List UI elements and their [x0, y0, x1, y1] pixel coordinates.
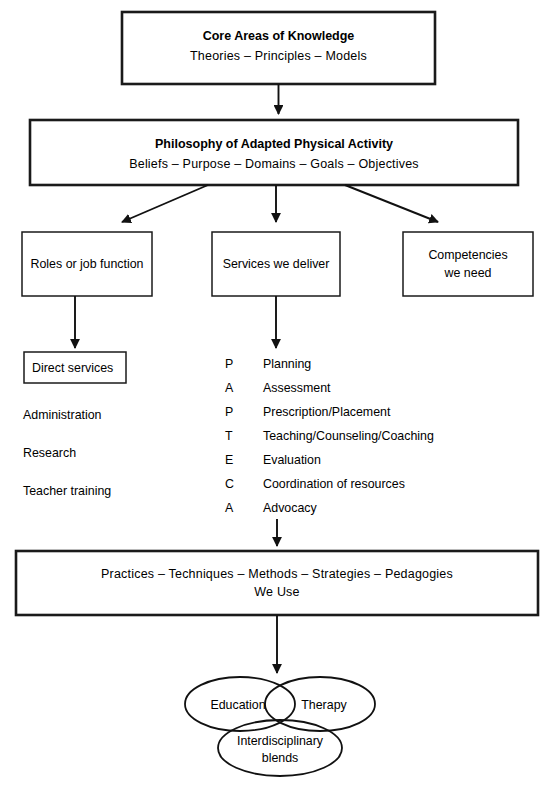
- branch-box-roles: Roles or job function: [22, 232, 152, 296]
- connector-philosophy-to-competencies: [345, 185, 438, 222]
- practices-line1: Practices – Techniques – Methods – Strat…: [101, 567, 453, 581]
- papteca-letter-3: T: [225, 429, 233, 443]
- venn-label-interdisciplinary-line2: blends: [262, 751, 299, 765]
- services-box-label: Services we deliver: [223, 257, 330, 271]
- philosophy-title: Philosophy of Adapted Physical Activity: [155, 137, 393, 151]
- competencies-box-label-line1: Competencies: [428, 248, 507, 262]
- papteca-label-3: Teaching/Counseling/Coaching: [263, 429, 434, 443]
- flowchart-canvas: Core Areas of Knowledge Theories – Princ…: [0, 0, 559, 789]
- roles-list-item-teacher-training: Teacher training: [23, 484, 111, 498]
- philosophy-box-rect: [30, 120, 518, 185]
- papteca-label-0: Planning: [263, 357, 311, 371]
- flowchart-diagram: Core Areas of Knowledge Theories – Princ…: [0, 0, 559, 789]
- direct-services-label: Direct services: [32, 361, 113, 375]
- venn-label-education: Education: [210, 698, 265, 712]
- core-areas-box: Core Areas of Knowledge Theories – Princ…: [122, 12, 435, 84]
- papteca-label-2: Prescription/Placement: [263, 405, 391, 419]
- papteca-label-4: Evaluation: [263, 453, 321, 467]
- papteca-letter-6: A: [225, 501, 234, 515]
- venn-ellipse-interdisciplinary: [218, 720, 342, 776]
- practices-line2: We Use: [254, 585, 299, 599]
- roles-list-item-research: Research: [23, 446, 76, 460]
- philosophy-subtitle: Beliefs – Purpose – Domains – Goals – Ob…: [129, 157, 419, 171]
- papteca-letter-1: A: [225, 381, 234, 395]
- connector-philosophy-to-roles: [122, 185, 208, 222]
- papteca-letter-2: P: [225, 405, 233, 419]
- papteca-label-5: Coordination of resources: [263, 477, 405, 491]
- branch-box-services: Services we deliver: [212, 232, 340, 296]
- competencies-box-rect: [403, 232, 533, 296]
- core-areas-title: Core Areas of Knowledge: [203, 29, 355, 43]
- papteca-letter-5: C: [225, 477, 234, 491]
- venn-label-therapy: Therapy: [301, 698, 347, 712]
- direct-services-box: Direct services: [24, 352, 126, 383]
- papteca-list: P Planning A Assessment P Prescription/P…: [225, 357, 434, 515]
- papteca-label-1: Assessment: [263, 381, 331, 395]
- practices-box-rect: [16, 551, 538, 615]
- core-areas-subtitle: Theories – Principles – Models: [190, 49, 367, 63]
- papteca-label-6: Advocacy: [263, 501, 318, 515]
- branch-box-competencies: Competencies we need: [403, 232, 533, 296]
- philosophy-box: Philosophy of Adapted Physical Activity …: [30, 120, 518, 185]
- core-areas-box-rect: [122, 12, 435, 84]
- venn-diagram: Education Therapy Interdisciplinary blen…: [185, 677, 375, 776]
- venn-label-interdisciplinary-line1: Interdisciplinary: [237, 734, 324, 748]
- roles-box-label: Roles or job function: [31, 257, 144, 271]
- competencies-box-label-line2: we need: [444, 266, 492, 280]
- roles-list-item-administration: Administration: [23, 408, 102, 422]
- practices-box: Practices – Techniques – Methods – Strat…: [16, 551, 538, 615]
- papteca-letter-0: P: [225, 357, 233, 371]
- papteca-letter-4: E: [225, 453, 233, 467]
